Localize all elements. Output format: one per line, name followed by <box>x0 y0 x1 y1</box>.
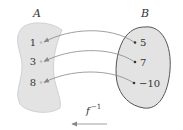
inverse-function-diagram: A B 1 3 8 5 7 −10 f −1 <box>0 0 183 130</box>
set-a-shape <box>18 23 62 112</box>
set-a-point-8 <box>40 81 42 83</box>
set-b-label: B <box>140 7 149 20</box>
set-a-label: A <box>32 7 41 20</box>
set-b-element-7: 7 <box>140 57 146 68</box>
set-b-element-neg10: −10 <box>139 78 160 89</box>
function-label: f −1 <box>85 103 101 116</box>
set-a-point-3 <box>40 60 42 62</box>
set-a-point-1 <box>40 41 42 43</box>
set-a-element-8: 8 <box>30 77 36 88</box>
set-b-element-5: 5 <box>140 37 146 48</box>
set-a-element-3: 3 <box>30 56 36 67</box>
function-superscript: −1 <box>91 103 101 111</box>
set-a-element-1: 1 <box>30 37 36 48</box>
